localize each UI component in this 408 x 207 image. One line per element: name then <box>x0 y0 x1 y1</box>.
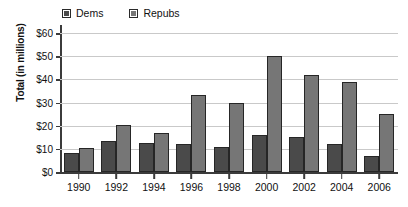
legend-entry-dems: Dems <box>62 7 103 19</box>
x-axis-tick <box>191 173 193 179</box>
bar-dems-1994 <box>139 143 154 172</box>
bar-group <box>135 33 173 172</box>
bar-dems-1992 <box>101 141 116 172</box>
x-axis-tick <box>341 173 343 179</box>
y-axis-tick <box>56 172 60 174</box>
bar-dems-2002 <box>289 137 304 172</box>
x-axis-label-1990: 1990 <box>60 181 98 193</box>
bar-group <box>60 33 98 172</box>
bar-dems-1996 <box>176 144 191 172</box>
bar-group <box>173 33 211 172</box>
bar-dems-2004 <box>327 144 342 172</box>
bar-group <box>285 33 323 172</box>
legend-label-repubs: Repubs <box>143 7 179 19</box>
bar-repubs-1990 <box>79 148 94 172</box>
y-axis-title: Total (in millions) <box>15 0 26 133</box>
bar-repubs-2004 <box>342 82 357 172</box>
x-axis-label-2002: 2002 <box>285 181 323 193</box>
y-axis-tick-label: $60 <box>36 28 53 39</box>
bar-group <box>248 33 286 172</box>
bar-group <box>98 33 136 172</box>
x-axis-label-1996: 1996 <box>173 181 211 193</box>
x-axis-label-2000: 2000 <box>248 181 286 193</box>
y-axis-tick-label: $50 <box>36 51 53 62</box>
x-axis-label-1992: 1992 <box>98 181 136 193</box>
x-axis-label-2006: 2006 <box>361 181 399 193</box>
bar-repubs-2002 <box>304 75 319 172</box>
bar-chart: Total (in millions) Dems Repubs $0$10$20… <box>0 0 408 207</box>
x-axis-label-2004: 2004 <box>323 181 361 193</box>
bar-repubs-1992 <box>116 125 131 172</box>
x-axis-label-1994: 1994 <box>135 181 173 193</box>
bar-dems-2000 <box>252 135 267 172</box>
bar-group <box>361 33 399 172</box>
y-axis-tick-label: $0 <box>42 167 53 178</box>
x-axis-tick <box>116 173 118 179</box>
legend-entry-repubs: Repubs <box>129 7 179 19</box>
x-axis-label-1998: 1998 <box>210 181 248 193</box>
legend-swatch-dems <box>62 9 71 18</box>
x-axis-tick <box>228 173 230 179</box>
bar-repubs-2000 <box>267 56 282 172</box>
bar-repubs-1998 <box>229 103 244 172</box>
legend-swatch-repubs <box>129 9 138 18</box>
bar-groups <box>60 33 398 172</box>
plot-area: $0$10$20$30$40$50$60 <box>60 33 398 172</box>
x-axis-tick <box>378 173 380 179</box>
x-axis-tick <box>303 173 305 179</box>
x-axis-tick <box>153 173 155 179</box>
x-axis-tick <box>78 173 80 179</box>
legend-label-dems: Dems <box>76 7 103 19</box>
bar-group <box>323 33 361 172</box>
bar-repubs-1996 <box>191 95 206 172</box>
x-axis-labels: 199019921994199619982000200220042006 <box>60 181 398 193</box>
y-axis-tick-label: $20 <box>36 120 53 131</box>
bar-dems-2006 <box>364 156 379 172</box>
x-axis-tick <box>266 173 268 179</box>
bar-dems-1990 <box>64 153 79 172</box>
chart-legend: Dems Repubs <box>62 4 180 22</box>
bar-dems-1998 <box>214 147 229 172</box>
bar-repubs-2006 <box>379 114 394 172</box>
y-axis-tick-label: $30 <box>36 97 53 108</box>
bar-group <box>210 33 248 172</box>
y-axis-tick-label: $40 <box>36 74 53 85</box>
y-axis-tick-label: $10 <box>36 143 53 154</box>
bar-repubs-1994 <box>154 133 169 172</box>
